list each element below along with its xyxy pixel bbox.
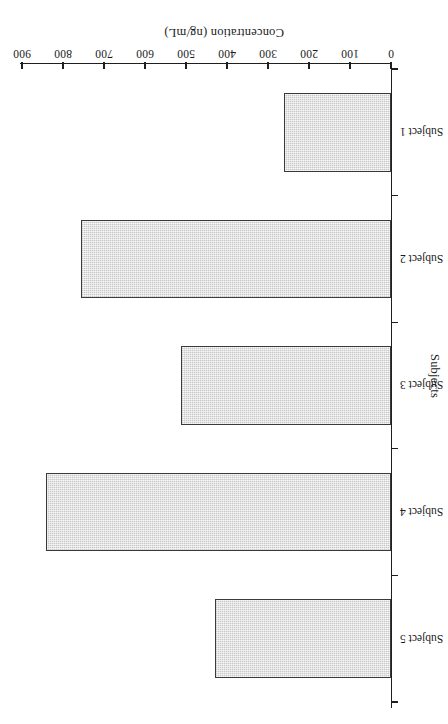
bar — [284, 93, 391, 171]
category-axis-tick — [391, 68, 398, 69]
value-axis-tick-label: 400 — [218, 48, 236, 60]
category-axis-tick-label: Subject 2 — [396, 253, 448, 265]
value-axis-tick — [185, 62, 186, 69]
value-axis-tick — [21, 62, 22, 69]
value-axis-line — [20, 63, 392, 64]
value-axis-tick-label: 600 — [136, 48, 154, 60]
category-axis-tick — [391, 322, 398, 323]
category-axis-tick-label: Subject 4 — [396, 506, 448, 518]
value-axis-tick-label: 300 — [259, 48, 277, 60]
value-axis-tick-label: 500 — [177, 48, 195, 60]
category-axis-tick-label: Subject 1 — [396, 126, 448, 138]
bar — [81, 220, 391, 298]
value-axis-tick-label: 700 — [95, 48, 113, 60]
category-axis-tick — [391, 701, 398, 702]
bar — [46, 473, 391, 551]
bar — [215, 599, 391, 677]
value-axis-title: Concentration (ng/mL) — [0, 25, 448, 40]
value-axis-tick-label: 0 — [388, 48, 394, 60]
value-axis-tick-label: 100 — [341, 48, 359, 60]
chart-figure-rotated: 0100200300400500600700800900 Subject 1Su… — [0, 0, 448, 724]
category-axis-tick — [391, 195, 398, 196]
value-axis-tick — [349, 62, 350, 69]
value-axis-tick — [226, 62, 227, 69]
value-axis-tick — [62, 62, 63, 69]
value-axis-tick-label: 900 — [13, 48, 31, 60]
value-axis-tick — [267, 62, 268, 69]
value-axis-tick-label: 800 — [54, 48, 72, 60]
category-axis-tick-label: Subject 5 — [396, 633, 448, 645]
value-axis-tick-label: 200 — [300, 48, 318, 60]
category-axis-tick — [391, 575, 398, 576]
bar-chart: 0100200300400500600700800900 Subject 1Su… — [0, 0, 448, 724]
category-axis-tick — [391, 448, 398, 449]
bar — [181, 346, 391, 424]
value-axis-tick — [308, 62, 309, 69]
value-axis-tick — [103, 62, 104, 69]
value-axis-tick — [144, 62, 145, 69]
category-axis-title: Subjects — [427, 276, 442, 476]
